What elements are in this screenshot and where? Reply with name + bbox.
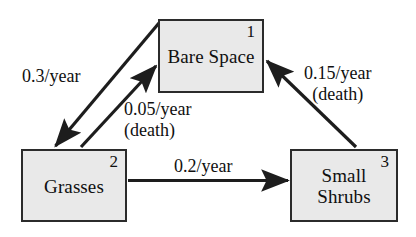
- node-bare-space-label: Bare Space: [160, 46, 262, 67]
- succession-diagram: 1 Bare Space 2 Grasses 3 Small Shrubs 0.…: [0, 0, 416, 237]
- node-bare-space-index: 1: [247, 22, 256, 41]
- edge-label-grasses-to-bare-rate: 0.05/year: [124, 99, 191, 119]
- edge-label-grasses-to-bare-note: (death): [124, 120, 191, 141]
- edge-label-shrubs-to-bare-note: (death): [304, 84, 371, 105]
- edge-label-grasses-to-bare: 0.05/year (death): [124, 99, 191, 141]
- edge-label-shrubs-to-bare: 0.15/year (death): [304, 63, 371, 105]
- node-grasses[interactable]: 2 Grasses: [21, 149, 127, 222]
- edge-label-shrubs-to-bare-rate: 0.15/year: [304, 63, 371, 83]
- node-small-shrubs-label-line-2: Shrubs: [292, 186, 396, 207]
- node-small-shrubs[interactable]: 3 Small Shrubs: [290, 149, 398, 222]
- node-grasses-label: Grasses: [23, 175, 125, 196]
- edge-label-bare-to-grasses: 0.3/year: [22, 66, 80, 87]
- node-small-shrubs-label-line-1: Small: [322, 165, 367, 186]
- edge-label-bare-to-grasses-rate: 0.3/year: [22, 66, 80, 86]
- node-grasses-index: 2: [110, 152, 119, 171]
- edge-label-grasses-to-shrubs: 0.2/year: [174, 156, 232, 177]
- node-bare-space[interactable]: 1 Bare Space: [158, 19, 264, 93]
- edge-label-grasses-to-shrubs-rate: 0.2/year: [174, 156, 232, 176]
- node-small-shrubs-label: Small Shrubs: [292, 165, 396, 207]
